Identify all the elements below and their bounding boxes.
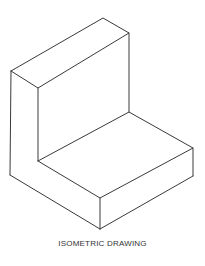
wall-top-face: [11, 18, 129, 88]
base-top-face: [38, 112, 193, 198]
figure-caption: ISOMETRIC DRAWING: [0, 239, 205, 248]
base-right-bottom-edge: [100, 176, 193, 229]
base-left-bottom-edge: [10, 175, 100, 229]
isometric-l-block: [0, 0, 205, 266]
wall-left-edge: [10, 71, 11, 175]
